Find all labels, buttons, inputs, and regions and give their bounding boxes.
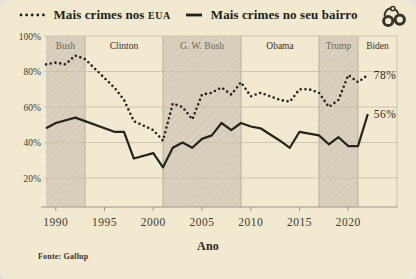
president-label: Obama [266, 41, 294, 51]
y-tick-label: 20% [24, 174, 42, 184]
band-G. W. Bush [163, 36, 241, 207]
x-tick-label: 2015 [287, 216, 312, 228]
president-labels: BushClintonG. W. BushObamaTrumpBiden [56, 41, 389, 51]
series-end-label: 78% [374, 69, 397, 81]
x-tick-label: 1990 [43, 216, 68, 228]
y-tick-label: 40% [24, 138, 42, 148]
president-label: Biden [366, 41, 389, 51]
source-note: Fonte: Gallup [38, 252, 88, 261]
y-tick-label: 60% [24, 103, 42, 113]
president-bands [46, 36, 397, 207]
x-tick-label: 2000 [141, 216, 166, 228]
x-tick-label: 2005 [190, 216, 215, 228]
x-tick-label: 2020 [336, 216, 361, 228]
band-Trump [319, 36, 358, 207]
x-tick-label: 2010 [238, 216, 263, 228]
president-label: Trump [326, 41, 352, 51]
x-axis: 1990199520002005201020152020 [41, 207, 398, 228]
y-tick-label: 80% [24, 67, 42, 77]
president-label: Bush [56, 41, 76, 51]
y-tick-label: 100% [19, 32, 41, 42]
president-label: G. W. Bush [180, 41, 224, 51]
president-label: Clinton [110, 41, 139, 51]
band-Bush [46, 36, 85, 207]
series-end-label: 56% [374, 108, 397, 120]
x-tick-label: 1995 [92, 216, 117, 228]
crime-trend-chart: 20%40%60%80%100%199019952000200520102015… [0, 0, 416, 236]
chart-card: Mais crimes nos EUA Mais crimes no seu b… [0, 0, 416, 279]
